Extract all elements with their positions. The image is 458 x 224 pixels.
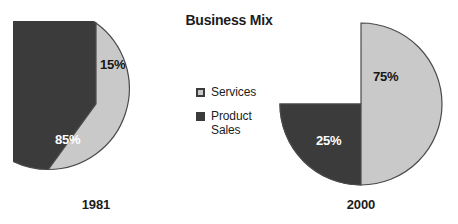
panel-year-label-2000: 2000 bbox=[278, 197, 444, 212]
legend-label-services: Services bbox=[211, 85, 256, 99]
slice-value-1981-services: 15% bbox=[100, 57, 125, 72]
cutoff-header-text bbox=[238, 0, 358, 3]
pie-chart-1981 bbox=[13, 21, 179, 187]
chart-title: Business Mix bbox=[0, 12, 458, 28]
slice-value-2000-product-sales: 25% bbox=[316, 133, 341, 148]
panel-year-label-1981: 1981 bbox=[13, 197, 179, 212]
slice-value-2000-services: 75% bbox=[373, 69, 398, 84]
pie-panel-1981: 15% 85% 1981 bbox=[13, 21, 179, 224]
legend-label-product-sales: Product Sales bbox=[211, 109, 276, 137]
dark-square-swatch-icon bbox=[196, 112, 205, 121]
legend-item-product-sales: Product Sales bbox=[196, 109, 276, 137]
chart-legend: Services Product Sales bbox=[196, 85, 276, 147]
pie-panel-2000: 75% 25% 2000 bbox=[278, 21, 444, 224]
slice-value-1981-product-sales: 85% bbox=[55, 132, 80, 147]
pie-chart-2000 bbox=[278, 21, 444, 187]
business-mix-chart-figure: Business Mix 15% 85% 1981 75% 25% 2000 S… bbox=[0, 0, 458, 224]
light-square-swatch-icon bbox=[196, 88, 205, 97]
legend-item-services: Services bbox=[196, 85, 276, 99]
